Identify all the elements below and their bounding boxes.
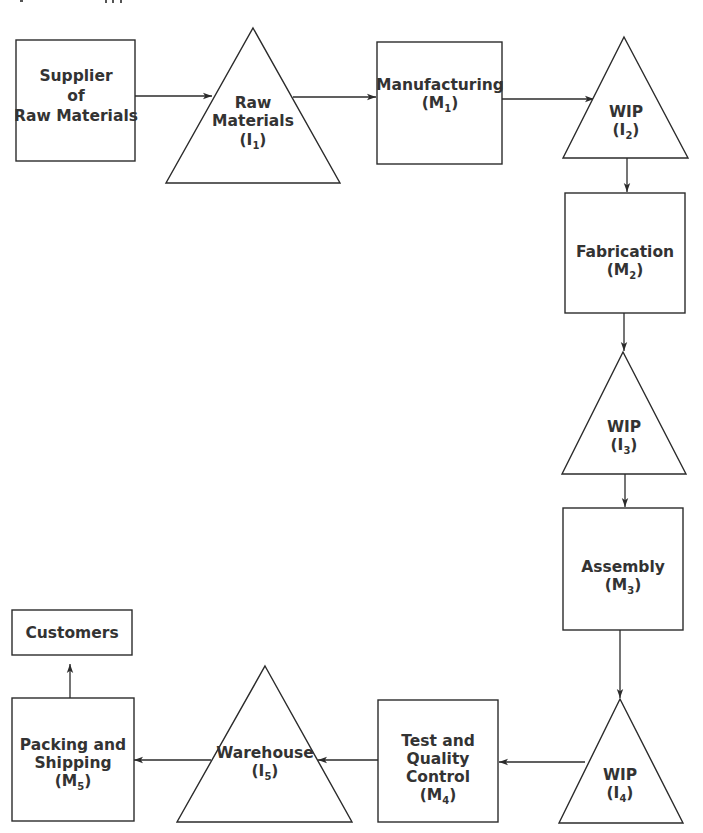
node-label-line: Fabrication	[576, 243, 674, 261]
node-code: (M1)	[422, 94, 459, 114]
node-label-line: Packing and	[20, 736, 126, 754]
node-customers: Customers	[12, 610, 132, 655]
node-wip-4: WIP (I4)	[559, 699, 683, 823]
node-label-line: Control	[406, 768, 470, 786]
node-fabrication: Fabrication (M2)	[565, 193, 685, 313]
node-code: (M3)	[605, 576, 642, 596]
node-packing-shipping: Packing and Shipping (M5)	[12, 698, 134, 821]
node-manufacturing: Manufacturing (M1)	[376, 42, 504, 164]
node-code: (M2)	[607, 261, 644, 281]
node-label-line: Customers	[25, 624, 118, 642]
node-label-line: Shipping	[34, 754, 111, 772]
node-code: (M4)	[420, 786, 457, 806]
node-warehouse: Warehouse (I5)	[177, 666, 352, 822]
node-label-line: Assembly	[581, 558, 665, 576]
connectors	[70, 96, 627, 762]
node-assembly: Assembly (M3)	[563, 508, 683, 630]
node-label-line: WIP	[607, 418, 641, 436]
node-label-line: Warehouse	[216, 744, 314, 762]
node-label-line: Raw	[235, 94, 272, 112]
node-label-line: Materials	[212, 112, 294, 130]
node-code: (M5)	[55, 772, 92, 792]
node-supplier: Supplier of Raw Materials	[14, 40, 138, 161]
node-raw-materials: Raw Materials (I1)	[166, 28, 340, 183]
node-label-line: Raw Materials	[14, 107, 138, 125]
cropped-caption	[20, 0, 122, 3]
node-test-qc: Test and Quality Control (M4)	[378, 700, 498, 822]
node-label-line: Supplier	[39, 67, 113, 85]
node-wip-2: WIP (I2)	[563, 37, 688, 158]
node-label-line: of	[67, 87, 85, 105]
node-label-line: WIP	[609, 103, 643, 121]
node-wip-3: WIP (I3)	[562, 352, 686, 474]
supply-chain-diagram: Supplier of Raw Materials Raw Materials …	[0, 0, 703, 833]
node-label-line: Quality	[407, 750, 470, 768]
node-label-line: WIP	[603, 766, 637, 784]
node-label-line: Manufacturing	[376, 76, 504, 94]
node-label-line: Test and	[401, 732, 475, 750]
